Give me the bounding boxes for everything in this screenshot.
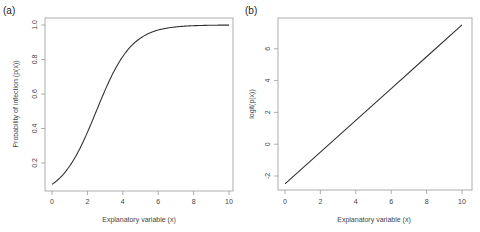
panel-a-y-axis-label: Probability of infection (p(x)) <box>12 60 20 147</box>
panel-b: (b) 0 2 4 6 8 10 Explanatory variable (x… <box>245 5 472 224</box>
panel-a-x-axis-label: Explanatory variable (x) <box>102 216 176 224</box>
panel-a-ytick-0.4: 0.4 <box>31 124 38 134</box>
panel-b-xtick-6: 6 <box>389 198 393 205</box>
panel-a-ytick-0.2: 0.2 <box>31 158 38 168</box>
panel-a-y-axis <box>41 25 45 163</box>
panel-b-x-axis-label: Explanatory variable (x) <box>337 216 411 224</box>
panel-b-logit-line <box>285 25 462 184</box>
panel-a-xtick-4: 4 <box>121 198 125 205</box>
panel-a-xtick-8: 8 <box>192 198 196 205</box>
panel-b-xtick-8: 8 <box>425 198 429 205</box>
panel-b-y-axis <box>274 49 278 176</box>
panel-b-xtick-4: 4 <box>354 198 358 205</box>
panel-a-xtick-0: 0 <box>50 198 54 205</box>
panel-a: (a) 0 2 4 6 8 10 Explanatory variable (x… <box>3 5 233 224</box>
panel-a-logistic-curve <box>52 25 229 184</box>
panel-b-x-axis <box>285 190 462 194</box>
panel-a-ytick-0.6: 0.6 <box>31 89 38 99</box>
panel-b-label: (b) <box>245 5 257 16</box>
panel-a-ytick-1.0: 1.0 <box>31 20 38 30</box>
panel-b-y-axis-label: logit(p(x)) <box>248 89 256 119</box>
panel-a-label: (a) <box>3 5 15 16</box>
panel-a-xtick-10: 10 <box>225 198 233 205</box>
panel-a-x-axis <box>52 191 229 195</box>
panel-b-ytick--2: -2 <box>264 173 271 179</box>
panel-a-plot-box <box>45 18 233 191</box>
panel-a-xtick-6: 6 <box>156 198 160 205</box>
panel-b-ytick-6: 6 <box>264 47 271 51</box>
panel-b-xtick-10: 10 <box>458 198 466 205</box>
panel-b-ytick-0: 0 <box>264 142 271 146</box>
panel-b-xtick-0: 0 <box>283 198 287 205</box>
panel-b-ytick-2: 2 <box>264 110 271 114</box>
panel-a-xtick-2: 2 <box>85 198 89 205</box>
figure: (a) 0 2 4 6 8 10 Explanatory variable (x… <box>0 0 480 232</box>
panel-b-xtick-2: 2 <box>318 198 322 205</box>
panel-a-ytick-0.8: 0.8 <box>31 55 38 65</box>
panel-b-ytick-4: 4 <box>264 79 271 83</box>
